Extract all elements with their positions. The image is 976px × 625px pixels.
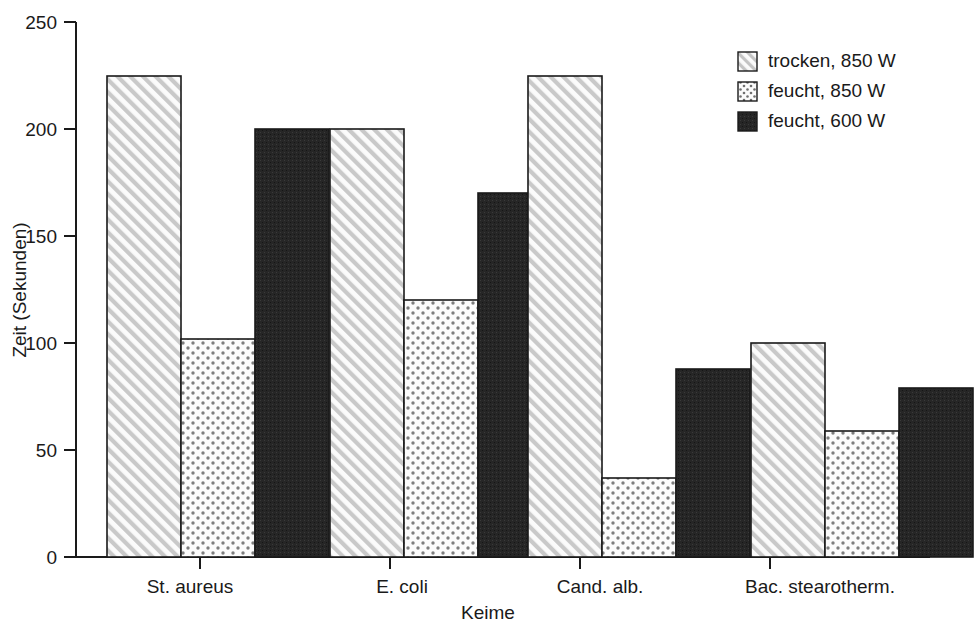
chart-canvas: 0 50 100 150 200 250 Zeit (Sekunden) St.… [0,0,976,625]
legend-item-feucht-850w: feucht, 850 W [738,80,885,101]
bar-bac-stearotherm-trocken-850w [751,343,825,557]
x-tick-label-e-coli: E. coli [376,576,428,597]
y-tick-label-50: 50 [36,440,57,461]
bar-cand-alb-feucht-600w [676,369,750,557]
legend-label-feucht-850w: feucht, 850 W [768,80,885,101]
legend-item-trocken-850w: trocken, 850 W [738,50,896,71]
legend-swatch-feucht-600w-icon [738,112,757,131]
bar-group-e-coli [330,129,552,557]
y-axis-title: Zeit (Sekunden) [9,222,30,357]
bar-chart: 0 50 100 150 200 250 Zeit (Sekunden) St.… [0,0,976,625]
bar-e-coli-trocken-850w [330,129,404,557]
legend: trocken, 850 W feucht, 850 W feucht, 600… [738,50,896,131]
x-tick-label-bac-stearotherm: Bac. stearotherm. [745,576,895,597]
bar-st-aureus-feucht-850w [181,339,255,557]
y-axis-ticks [64,22,76,557]
legend-swatch-feucht-850w-icon [738,82,757,101]
y-axis-tick-labels: 0 50 100 150 200 250 [25,12,57,568]
bar-st-aureus-trocken-850w [107,76,181,557]
x-axis-ticks [200,557,770,569]
legend-item-feucht-600w: feucht, 600 W [738,110,885,131]
y-tick-label-250: 250 [25,12,57,33]
bar-st-aureus-feucht-600w [255,129,329,557]
bar-group-bac-stearotherm [751,343,973,557]
bar-cand-alb-trocken-850w [528,76,602,557]
bar-bac-stearotherm-feucht-600w [899,388,973,557]
y-tick-label-100: 100 [25,333,57,354]
y-tick-label-0: 0 [46,547,57,568]
x-axis: St. aureus E. coli Cand. alb. Bac. stear… [76,557,930,623]
bar-group-cand-alb [528,76,750,557]
x-axis-tick-labels: St. aureus E. coli Cand. alb. Bac. stear… [147,576,895,597]
y-axis: 0 50 100 150 200 250 Zeit (Sekunden) [9,12,76,568]
legend-swatch-trocken-850w-icon [738,52,757,71]
bar-cand-alb-feucht-850w [602,478,676,557]
bar-e-coli-feucht-850w [404,300,478,557]
x-tick-label-cand-alb: Cand. alb. [557,576,644,597]
y-tick-label-150: 150 [25,226,57,247]
y-tick-label-200: 200 [25,119,57,140]
bar-bac-stearotherm-feucht-850w [825,431,899,557]
legend-label-feucht-600w: feucht, 600 W [768,110,885,131]
x-tick-label-st-aureus: St. aureus [147,576,234,597]
x-axis-title: Keime [461,602,515,623]
legend-label-trocken-850w: trocken, 850 W [768,50,896,71]
bar-group-st-aureus [107,76,329,557]
